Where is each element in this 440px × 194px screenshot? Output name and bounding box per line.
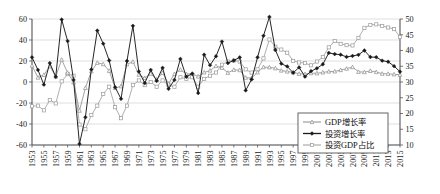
y-axis-right-tick-label: 30: [406, 78, 414, 87]
y-axis-right-tick-label: 40: [406, 46, 414, 55]
data-point-marker: [119, 97, 123, 101]
data-point-marker: [232, 68, 236, 72]
data-point-marker: [78, 123, 81, 126]
x-axis-tick-label: 1953: [28, 151, 37, 167]
data-point-marker: [102, 92, 105, 95]
data-point-marker: [345, 44, 348, 47]
data-point-marker: [119, 117, 122, 120]
y-axis-right: 101520253035404550: [400, 15, 414, 150]
series-1: [30, 58, 402, 113]
data-point-marker: [60, 58, 64, 62]
data-point-marker: [131, 60, 135, 64]
data-point-marker: [387, 26, 390, 29]
data-point-marker: [48, 98, 51, 101]
data-point-marker: [303, 62, 306, 65]
x-axis-tick-label: 1985: [218, 151, 227, 167]
data-point-marker: [101, 62, 105, 66]
data-point-marker: [279, 69, 283, 73]
data-point-marker: [42, 109, 45, 112]
data-point-marker: [178, 57, 182, 61]
x-axis-tick-label: 1959: [64, 151, 73, 167]
x-axis-tick-label: 1969: [123, 151, 132, 167]
data-point-marker: [96, 104, 99, 107]
data-point-marker: [60, 80, 63, 83]
data-point-marker: [392, 72, 396, 76]
data-point-marker: [333, 39, 336, 42]
line-chart: -60-40-200204060 101520253035404550 1953…: [0, 0, 440, 194]
chart-legend: GDP增长率投资增长率投资GDP占比: [298, 113, 388, 153]
x-axis-tick-label: 1987: [230, 151, 239, 167]
data-point-marker: [149, 68, 153, 72]
data-point-marker: [72, 78, 76, 82]
x-axis-tick-label: 1981: [194, 151, 203, 167]
data-point-marker: [321, 70, 325, 74]
data-point-marker: [280, 48, 283, 51]
data-point-marker: [90, 113, 93, 116]
y-axis-left: -60-40-200204060: [16, 15, 32, 150]
data-point-marker: [137, 70, 141, 74]
data-point-marker: [333, 69, 337, 73]
x-axis-tick-label: 1977: [171, 151, 180, 167]
data-point-marker: [375, 23, 378, 26]
legend-label: GDP增长率: [325, 117, 366, 127]
data-point-marker: [268, 38, 271, 41]
data-point-marker: [107, 59, 111, 63]
x-axis-tick-label: 1989: [242, 151, 251, 167]
data-point-marker: [238, 68, 242, 72]
x-axis-tick-label: 1979: [182, 151, 191, 167]
data-point-marker: [202, 70, 206, 74]
data-point-marker: [214, 71, 217, 74]
data-point-marker: [84, 115, 88, 119]
data-point-marker: [327, 70, 331, 74]
data-point-marker: [208, 74, 211, 77]
data-point-marker: [381, 24, 384, 27]
y-axis-left-tick-label: 60: [19, 15, 27, 24]
x-axis-tick-label: 1967: [111, 151, 120, 167]
data-point-marker: [321, 56, 324, 59]
data-point-marker: [262, 34, 266, 38]
data-point-marker: [339, 53, 343, 57]
data-point-marker: [113, 106, 116, 109]
data-point-marker: [286, 51, 289, 54]
data-point-marker: [244, 68, 247, 71]
data-point-marker: [36, 68, 40, 72]
data-point-marker: [398, 35, 401, 38]
data-point-marker: [357, 36, 360, 39]
data-point-marker: [351, 65, 355, 69]
data-point-marker: [95, 61, 99, 65]
data-point-marker: [149, 80, 152, 83]
y-axis-right-tick-label: 45: [406, 31, 414, 40]
data-point-marker: [262, 65, 266, 69]
data-point-marker: [131, 84, 134, 87]
data-point-marker: [137, 79, 140, 82]
y-axis-right-tick-label: 15: [406, 125, 414, 134]
data-point-marker: [292, 59, 295, 62]
data-point-marker: [30, 64, 34, 68]
data-point-marker: [161, 79, 164, 82]
x-axis-tick-label: 1971: [135, 151, 144, 167]
data-point-marker: [203, 77, 206, 80]
x-axis-tick-label: 1973: [147, 151, 156, 167]
data-point-marker: [297, 61, 300, 64]
data-point-marker: [196, 75, 200, 79]
legend-label: 投资增长率: [325, 129, 365, 139]
data-point-marker: [392, 27, 395, 30]
data-point-marker: [351, 44, 354, 47]
data-point-marker: [95, 29, 99, 33]
data-point-marker: [339, 68, 343, 72]
data-point-marker: [363, 70, 367, 74]
data-point-marker: [30, 55, 34, 59]
x-axis-tick-label: 1983: [206, 151, 215, 167]
data-point-marker: [214, 64, 218, 68]
data-point-marker: [327, 46, 330, 49]
y-axis-left-tick-label: -60: [16, 141, 27, 150]
data-point-marker: [315, 71, 319, 75]
data-point-marker: [202, 53, 206, 57]
x-axis-tick-label: 1961: [76, 151, 85, 167]
data-point-marker: [108, 85, 111, 88]
data-point-marker: [380, 59, 384, 63]
data-point-marker: [310, 143, 313, 146]
data-point-marker: [369, 23, 372, 26]
chart-container: -60-40-200204060 101520253035404550 1953…: [0, 0, 440, 194]
data-point-marker: [36, 76, 40, 80]
